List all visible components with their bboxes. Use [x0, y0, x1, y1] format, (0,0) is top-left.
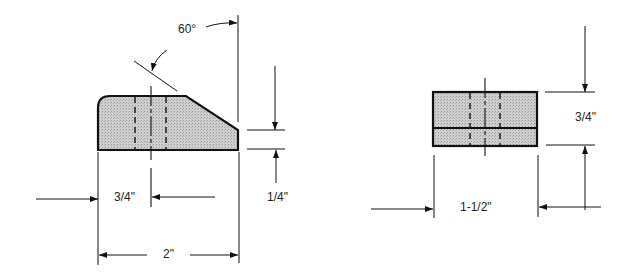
technical-drawing: [0, 0, 634, 279]
width-label-2in: 2": [163, 247, 174, 261]
angle-arc: [152, 50, 167, 71]
left-view: [36, 15, 285, 265]
angle-arc: [206, 23, 237, 27]
chamfer-height-label: 1/4": [267, 190, 288, 204]
right-view: [371, 26, 601, 218]
angle-label: 60°: [178, 22, 196, 36]
angle-reference-line: [134, 61, 177, 91]
right-height-label: 3/4": [575, 110, 596, 124]
right-width-label: 1-1/2": [460, 200, 492, 214]
hole-offset-label: 3/4": [114, 190, 135, 204]
left-part-body: [98, 96, 238, 150]
